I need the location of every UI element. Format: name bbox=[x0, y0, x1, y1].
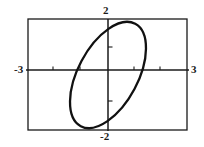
coordinate-plane-svg bbox=[0, 0, 204, 147]
y-axis-top-label: 2 bbox=[103, 5, 109, 16]
graph-screenshot: 2 -2 -3 3 bbox=[0, 0, 204, 147]
x-axis-left-label: -3 bbox=[14, 64, 23, 75]
y-axis-bottom-label: -2 bbox=[100, 131, 109, 142]
x-axis-right-label: 3 bbox=[191, 64, 197, 75]
